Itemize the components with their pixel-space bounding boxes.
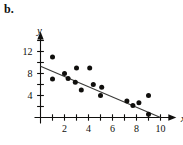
data-point — [50, 55, 55, 60]
data-point — [130, 103, 135, 108]
y-axis-tick-label: 12 — [23, 46, 33, 57]
y-axis-tick-label: 4 — [28, 90, 33, 101]
data-point — [98, 93, 103, 98]
x-axis-tick-label: 6 — [110, 123, 115, 134]
data-point — [73, 80, 78, 85]
data-point — [87, 66, 92, 71]
data-point — [91, 82, 96, 87]
x-axis-tick-label: 4 — [86, 123, 91, 134]
x-axis-tick-label: 8 — [134, 123, 139, 134]
axis-tick-labels-group: 2468104812 — [23, 46, 166, 133]
data-point — [74, 66, 79, 71]
data-point — [99, 85, 104, 90]
data-point — [146, 112, 151, 117]
data-point — [124, 99, 129, 104]
y-axis-label: y — [36, 24, 42, 36]
scatter-plot-figure: b. 2468104812 yx — [0, 0, 183, 145]
plot-canvas: 2468104812 yx — [0, 0, 183, 145]
data-point — [79, 88, 84, 93]
x-axis-tick-label: 10 — [156, 123, 166, 134]
trendline-group — [41, 66, 161, 117]
x-axis-arrowhead — [168, 114, 176, 120]
axes-group — [35, 32, 177, 124]
data-point — [62, 71, 67, 76]
data-point — [136, 100, 141, 105]
y-axis-tick-label: 8 — [28, 68, 33, 79]
data-point — [146, 93, 151, 98]
x-axis-label: x — [180, 112, 183, 124]
regression-trendline — [41, 66, 161, 117]
data-point — [66, 76, 71, 81]
data-point — [50, 77, 55, 82]
x-axis-tick-label: 2 — [62, 123, 67, 134]
